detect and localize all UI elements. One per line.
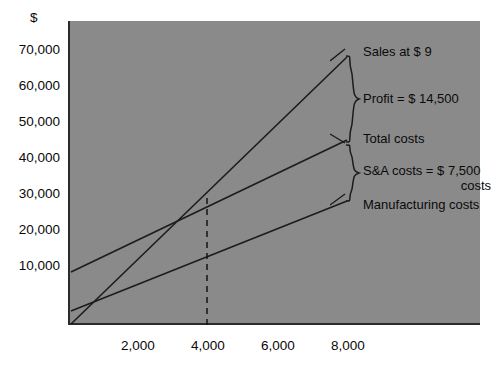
series-line-manufacturing-costs: [71, 201, 347, 311]
y-axis-unit-label: $: [30, 10, 38, 25]
annotation-total-costs: Total costs: [363, 131, 424, 146]
sales-leader-line: [330, 48, 348, 62]
y-tick-label-10000: 10,000: [0, 258, 60, 273]
annotation-sa-costs-line2: costs: [363, 178, 491, 193]
annotation-profit: Profit = $ 14,500: [363, 91, 459, 106]
y-tick-label-70000: 70,000: [0, 42, 60, 57]
annotation-manufacturing-costs: Manufacturing costs: [363, 197, 479, 212]
y-tick-label-50000: 50,000: [0, 114, 60, 129]
x-tick-label-2000: 2,000: [103, 338, 173, 353]
manufacturing-leader-line: [330, 193, 348, 207]
cvp-chart-figure: $ 70,000 60,000 50,000 40,000 30,000 20,…: [0, 0, 499, 370]
series-line-sales: [71, 57, 347, 324]
annotation-sa-costs-line1: S&A costs = $ 7,500: [363, 163, 491, 178]
series-line-total-costs: [71, 140, 347, 272]
x-tick-label-8000: 8,000: [313, 338, 383, 353]
y-tick-label-40000: 40,000: [0, 150, 60, 165]
annotation-sales: Sales at $ 9: [363, 44, 432, 59]
profit-brace-icon: [344, 52, 362, 146]
x-tick-label-4000: 4,000: [173, 338, 243, 353]
y-tick-label-60000: 60,000: [0, 78, 60, 93]
x-tick-label-6000: 6,000: [243, 338, 313, 353]
annotation-sa-costs: S&A costs = $ 7,500 costs: [363, 163, 491, 193]
y-tick-label-30000: 30,000: [0, 186, 60, 201]
y-tick-label-20000: 20,000: [0, 222, 60, 237]
